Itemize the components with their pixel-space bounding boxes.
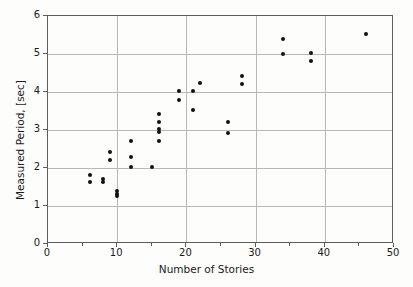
- gridline-horizontal: [48, 92, 392, 93]
- y-axis-tick: [43, 129, 47, 130]
- data-point: [157, 139, 161, 143]
- data-point: [129, 155, 133, 159]
- gridline-horizontal: [48, 206, 392, 207]
- y-axis-tick: [43, 167, 47, 168]
- y-axis-tick-label: 1: [18, 199, 40, 210]
- y-axis-tick: [43, 205, 47, 206]
- data-point: [129, 139, 133, 143]
- data-point: [309, 59, 313, 63]
- gridline-vertical: [117, 16, 118, 242]
- x-axis-tick-label: 40: [309, 247, 339, 258]
- y-axis-tick: [43, 91, 47, 92]
- data-point: [281, 52, 285, 56]
- data-point: [157, 120, 161, 124]
- data-point: [240, 74, 244, 78]
- x-axis-tick-label: 10: [101, 247, 131, 258]
- data-point: [88, 180, 92, 184]
- plot-area: [47, 15, 393, 243]
- y-axis-tick: [43, 15, 47, 16]
- data-point: [240, 82, 244, 86]
- y-axis-tick-label: 3: [18, 123, 40, 134]
- data-point: [198, 81, 202, 85]
- x-axis-tick-label: 0: [32, 247, 62, 258]
- x-axis-minor-tick: [289, 243, 290, 246]
- y-axis-tick-label: 0: [18, 237, 40, 248]
- y-axis-tick-label: 2: [18, 161, 40, 172]
- data-point: [226, 120, 230, 124]
- y-axis-tick-label: 5: [18, 47, 40, 58]
- scatter-plot-figure: Measured Period, [sec] Number of Stories…: [0, 0, 413, 287]
- gridline-vertical: [186, 16, 187, 242]
- y-axis-tick-label: 4: [18, 85, 40, 96]
- y-axis-label: Measured Period, [sec]: [14, 80, 26, 200]
- data-point: [364, 32, 368, 36]
- x-axis-minor-tick: [151, 243, 152, 246]
- x-axis-tick-label: 50: [378, 247, 408, 258]
- y-axis-tick-label: 6: [18, 9, 40, 20]
- x-axis-tick-label: 20: [170, 247, 200, 258]
- x-axis-minor-tick: [358, 243, 359, 246]
- data-point: [157, 112, 161, 116]
- data-point: [177, 98, 181, 102]
- x-axis-label: Number of Stories: [0, 263, 413, 275]
- gridline-vertical: [256, 16, 257, 242]
- data-point: [191, 108, 195, 112]
- data-point: [226, 131, 230, 135]
- data-point: [88, 173, 92, 177]
- data-point: [101, 180, 105, 184]
- data-point: [281, 37, 285, 41]
- y-axis-tick: [43, 53, 47, 54]
- gridline-horizontal: [48, 54, 392, 55]
- gridline-horizontal: [48, 168, 392, 169]
- x-axis-minor-tick: [220, 243, 221, 246]
- data-point: [108, 158, 112, 162]
- gridline-horizontal: [48, 130, 392, 131]
- data-point: [108, 150, 112, 154]
- x-axis-tick-label: 30: [240, 247, 270, 258]
- x-axis-minor-tick: [82, 243, 83, 246]
- y-axis-tick: [43, 243, 47, 244]
- data-point: [115, 194, 119, 198]
- data-point: [157, 130, 161, 134]
- gridline-vertical: [325, 16, 326, 242]
